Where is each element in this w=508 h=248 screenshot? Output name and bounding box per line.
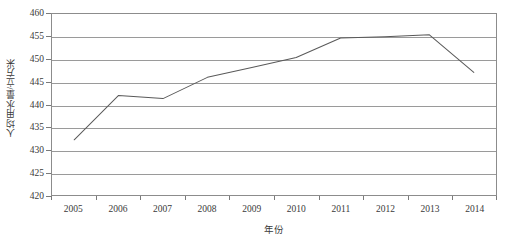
data-series-line — [52, 14, 496, 195]
x-axis-tick — [274, 196, 275, 200]
y-axis-tick-label: 420 — [30, 191, 44, 201]
x-axis-tick — [452, 196, 453, 200]
x-axis-tick — [229, 196, 230, 200]
x-axis-tick-label: 2014 — [465, 203, 484, 215]
x-axis-tick-marks — [51, 196, 497, 201]
x-axis-tick — [96, 196, 97, 200]
x-axis-tick — [51, 196, 52, 200]
x-axis-tick — [363, 196, 364, 200]
y-axis-tick-label: 440 — [30, 100, 44, 110]
x-axis-tick-label: 2009 — [242, 203, 261, 215]
y-axis-tick-label: 425 — [30, 168, 44, 178]
x-axis-tick — [319, 196, 320, 200]
y-axis-tick-labels: 460455450445440435430425420 — [16, 0, 48, 209]
plot-area — [51, 13, 497, 196]
y-axis-tick-label: 455 — [30, 31, 44, 41]
x-axis-tick — [496, 196, 497, 200]
y-axis-tick-label: 435 — [30, 122, 44, 132]
x-axis-tick — [185, 196, 186, 200]
y-axis-tick-label: 430 — [30, 145, 44, 155]
x-axis-tick-labels: 2005200620072008200920102011201220132014 — [51, 203, 497, 217]
y-axis-tick-label: 460 — [30, 8, 44, 18]
line-chart: 人均用水量/立方米 460455450445440435430425420 20… — [0, 0, 508, 248]
y-axis-title-text: 人均用水量/立方米 — [3, 58, 16, 137]
x-axis-title: 年份 — [51, 222, 497, 236]
x-axis-tick-label: 2007 — [153, 203, 172, 215]
x-axis-tick-label: 2006 — [108, 203, 127, 215]
x-axis-tick-label: 2011 — [332, 203, 351, 215]
x-axis-tick — [408, 196, 409, 200]
x-axis-tick-label: 2010 — [287, 203, 306, 215]
series-polyline — [74, 35, 474, 140]
y-axis-tick-label: 450 — [30, 54, 44, 64]
x-axis-tick-label: 2013 — [421, 203, 440, 215]
x-axis-tick-label: 2012 — [376, 203, 395, 215]
x-axis-tick-label: 2005 — [64, 203, 83, 215]
x-axis-tick-label: 2008 — [198, 203, 217, 215]
y-axis-tick-label: 445 — [30, 77, 44, 87]
x-axis-tick — [140, 196, 141, 200]
